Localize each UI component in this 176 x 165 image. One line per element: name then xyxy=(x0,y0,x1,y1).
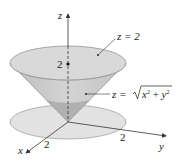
cone-radicand: x2 + y2 xyxy=(141,88,170,100)
x-tick-label: 2 xyxy=(44,138,50,150)
diagram-canvas: z 2 x 2 2 y z = 2 z = x2 + y2 xyxy=(0,0,176,165)
plane-leader-dot xyxy=(97,54,99,56)
radicand-plus: + xyxy=(150,88,162,100)
z-tick-label: 2 xyxy=(57,58,63,70)
cone-leader-dot xyxy=(85,93,87,95)
cone-diagram: z 2 x 2 2 y z = 2 z = x2 + y2 xyxy=(0,0,176,165)
y-tick-label: 2 xyxy=(120,131,126,143)
cone-equation-label: z = xyxy=(111,88,126,100)
plane-label: z = 2 xyxy=(116,30,140,42)
radicand-y-exp: 2 xyxy=(167,89,170,95)
x-axis-label: x xyxy=(17,144,23,156)
cone-eq-prefix: z = xyxy=(111,88,126,100)
z-axis-label: z xyxy=(57,9,63,21)
z-tick-dot xyxy=(66,62,69,65)
y-axis-label: y xyxy=(158,140,164,152)
